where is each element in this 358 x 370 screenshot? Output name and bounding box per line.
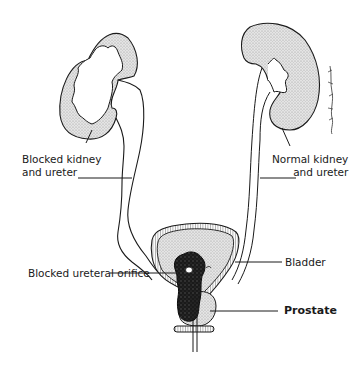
artist-signature bbox=[328, 66, 333, 134]
label-prostate: Prostate bbox=[284, 304, 337, 317]
label-normal-kidney-line1: Normal kidney bbox=[272, 153, 348, 166]
label-blocked-kidney: Blocked kidney and ureter bbox=[22, 153, 101, 179]
label-blocked-kidney-line2: and ureter bbox=[22, 166, 101, 179]
label-blocked-orifice: Blocked ureteral orifice bbox=[28, 267, 150, 280]
label-normal-kidney: Normal kidney and ureter bbox=[272, 153, 348, 179]
label-normal-kidney-line2: and ureter bbox=[272, 166, 348, 179]
label-blocked-kidney-line1: Blocked kidney bbox=[22, 153, 101, 166]
label-bladder: Bladder bbox=[285, 256, 326, 269]
